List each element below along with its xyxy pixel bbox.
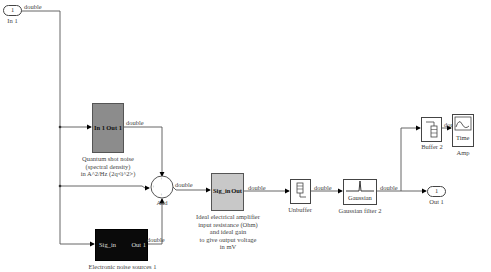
electronic-noise-block[interactable]: Sig_in Out 1	[95, 229, 148, 261]
unbuffer-icon	[291, 180, 310, 203]
signal-label-sum: double	[175, 181, 193, 188]
signal-label-electronic: double	[147, 236, 165, 243]
outport-1[interactable]: 1	[427, 186, 446, 197]
sum-sign-left: +	[152, 184, 155, 189]
buffer-caption: Buffer 2	[415, 143, 449, 151]
amplifier-caption: Ideal electrical amplifier input resista…	[188, 213, 268, 251]
signal-label-unbuffer: double	[314, 184, 332, 191]
outport-number: 1	[435, 187, 438, 194]
port-in: Sig_in	[213, 187, 230, 194]
scope-inner-label: Time	[456, 134, 470, 141]
inport-1[interactable]: 1	[3, 5, 22, 16]
signal-label-gaussian: double	[380, 184, 398, 191]
sum-sign-bottom: +	[160, 192, 163, 197]
scope-plot-icon	[453, 116, 473, 132]
gaussian-pulse-icon	[344, 180, 376, 192]
inport-number: 1	[11, 6, 14, 13]
gaussian-inner-label: Gaussian	[348, 194, 372, 201]
port-in: In 1	[94, 124, 105, 131]
signal-label-amplifier: double	[248, 184, 266, 191]
scope-caption: Amp	[450, 149, 476, 157]
unbuffer-block[interactable]	[290, 179, 311, 204]
gaussian-filter-block[interactable]: Gaussian	[343, 179, 377, 205]
sum-label: Add	[152, 199, 172, 207]
line-in1-trunk	[21, 11, 60, 244]
quantum-shot-noise-block[interactable]: In 1 Out 1	[92, 103, 124, 153]
amplifier-block[interactable]: Sig_in Out	[211, 173, 244, 211]
port-out: Out 1	[131, 241, 146, 248]
port-in: Sig_in	[99, 241, 116, 248]
port-out: Out	[231, 187, 242, 194]
quantum-caption: Quantum shot noise (spectral density) in…	[68, 155, 148, 178]
unbuffer-caption: Unbuffer	[280, 206, 320, 214]
electronic-caption: Electronic noise sources 1	[75, 263, 170, 271]
scope-block[interactable]: Time	[452, 114, 474, 147]
sum-sign-top: +	[160, 176, 163, 181]
buffer-icon	[422, 118, 441, 141]
outport-label: Out 1	[425, 198, 448, 206]
buffer-block[interactable]	[421, 117, 442, 142]
signal-label-in1: double	[24, 3, 42, 10]
inport-label: In 1	[3, 17, 22, 25]
gaussian-caption: Gaussian filter 2	[335, 207, 385, 215]
port-out: Out 1	[106, 124, 122, 131]
signal-label-quantum: double	[126, 119, 144, 126]
